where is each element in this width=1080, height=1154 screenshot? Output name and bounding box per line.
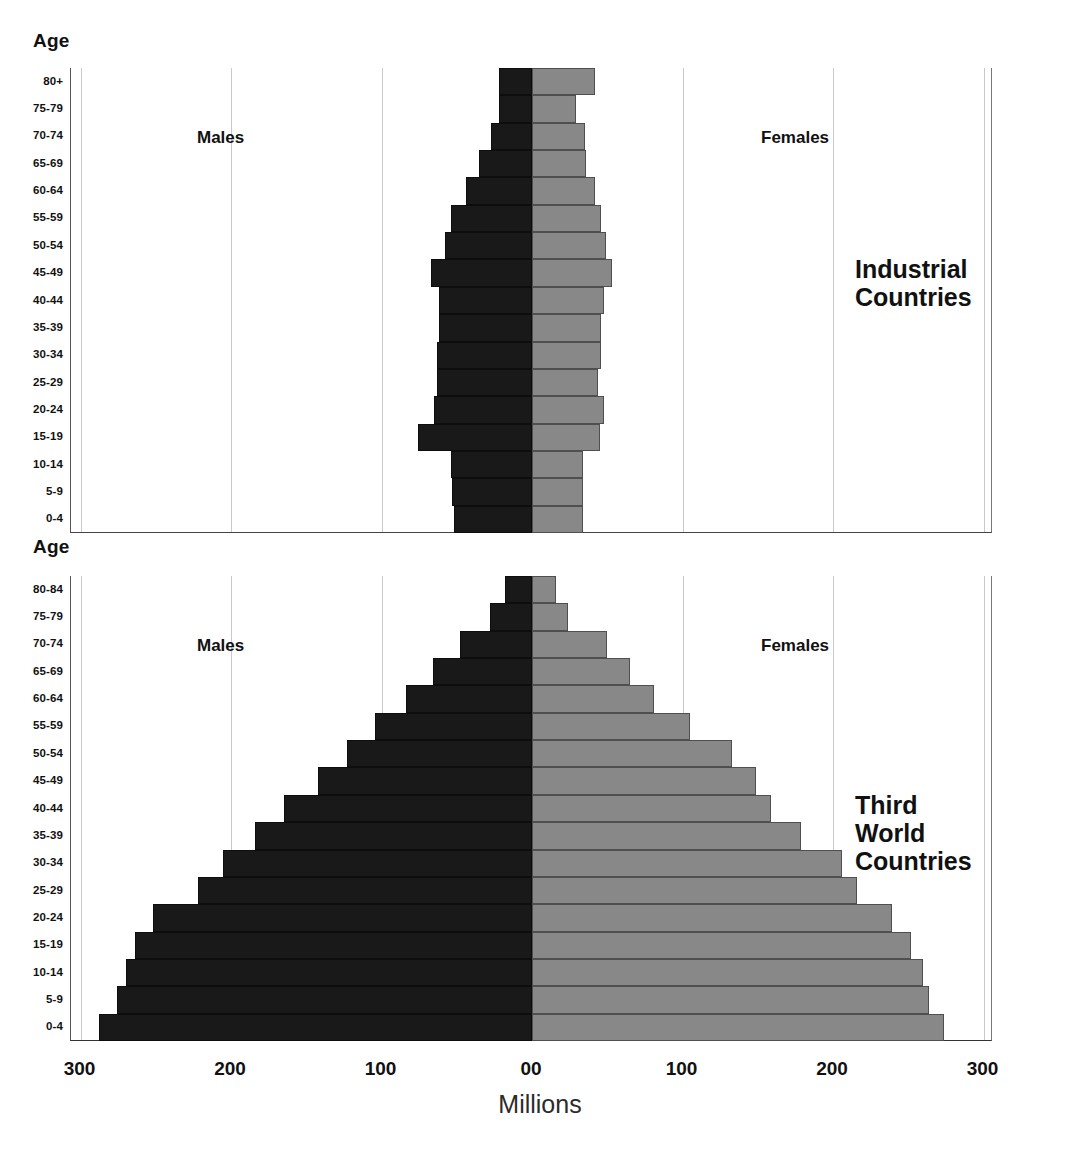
bar-female [532, 658, 630, 685]
x-tick-label: 00 [520, 1058, 541, 1080]
bar-male [499, 95, 532, 122]
age-group-label: 50-54 [5, 747, 63, 759]
pyramid-row [71, 342, 991, 369]
pyramid-row [71, 451, 991, 478]
bar-female [532, 342, 601, 369]
bar-female [532, 576, 556, 603]
bar-female [532, 713, 690, 740]
bar-female [532, 877, 857, 904]
bar-male [198, 877, 532, 904]
pyramid-row [71, 232, 991, 259]
axis-label-age-bottom: Age [33, 536, 70, 558]
bar-female [532, 822, 801, 849]
age-group-label: 75-79 [5, 102, 63, 114]
pyramid-row [71, 850, 991, 877]
pyramid-row [71, 740, 991, 767]
bar-male [431, 259, 532, 286]
bar-male [460, 631, 532, 658]
bar-female [532, 767, 756, 794]
bar-male [153, 904, 532, 931]
panel-third-world-countries: Age Males Females Third World Countries … [0, 528, 1080, 1068]
age-group-label: 80+ [5, 75, 63, 87]
bar-female [532, 177, 595, 204]
bar-male [439, 287, 532, 314]
bar-male [375, 713, 532, 740]
bar-male [135, 932, 532, 959]
age-group-label: 5-9 [5, 485, 63, 497]
bar-male [126, 959, 532, 986]
bar-female [532, 123, 585, 150]
pyramid-row [71, 287, 991, 314]
bar-male [439, 314, 532, 341]
x-tick-label: 100 [365, 1058, 397, 1080]
age-group-label: 45-49 [5, 774, 63, 786]
age-group-label: 30-34 [5, 348, 63, 360]
pyramid-row [71, 259, 991, 286]
pyramid-row [71, 986, 991, 1013]
bar-male [499, 68, 532, 95]
x-tick-label: 200 [816, 1058, 848, 1080]
pyramid-row [71, 1014, 991, 1041]
age-group-label: 65-69 [5, 665, 63, 677]
pyramid-row [71, 795, 991, 822]
bar-female [532, 205, 601, 232]
bar-female [532, 631, 607, 658]
age-group-label: 65-69 [5, 157, 63, 169]
bar-male [491, 123, 532, 150]
pyramid-row [71, 369, 991, 396]
pyramid-row [71, 478, 991, 505]
age-group-label: 50-54 [5, 239, 63, 251]
bar-female [532, 740, 732, 767]
caption-industrial-countries: Industrial Countries [855, 255, 972, 311]
pyramid-row [71, 767, 991, 794]
bar-male [451, 205, 532, 232]
bar-female [532, 259, 612, 286]
age-group-label: 60-64 [5, 692, 63, 704]
bar-female [532, 424, 600, 451]
plot-area-industrial: Males Females Industrial Countries 80+75… [70, 68, 992, 533]
population-pyramid-figure: Age Males Females Industrial Countries 8… [0, 0, 1080, 1154]
axis-title-millions: Millions [0, 1090, 1080, 1119]
age-group-label: 0-4 [5, 1020, 63, 1032]
bar-female [532, 232, 606, 259]
axis-label-age-top: Age [33, 30, 70, 52]
bar-male [434, 396, 532, 423]
bar-female [532, 685, 654, 712]
label-males-bottom: Males [197, 636, 244, 656]
pyramid-row [71, 658, 991, 685]
pyramid-row [71, 314, 991, 341]
label-females-top: Females [761, 128, 829, 148]
bar-male [347, 740, 532, 767]
pyramid-row [71, 685, 991, 712]
age-group-label: 35-39 [5, 321, 63, 333]
pyramid-row [71, 932, 991, 959]
bar-female [532, 369, 598, 396]
bar-male [505, 576, 532, 603]
age-group-label: 5-9 [5, 993, 63, 1005]
age-group-label: 55-59 [5, 719, 63, 731]
bar-female [532, 287, 604, 314]
age-group-label: 70-74 [5, 637, 63, 649]
pyramid-row [71, 959, 991, 986]
x-tick-label: 100 [666, 1058, 698, 1080]
bar-female [532, 850, 842, 877]
age-group-label: 55-59 [5, 211, 63, 223]
bar-male [418, 424, 532, 451]
bar-male [451, 451, 532, 478]
age-group-label: 15-19 [5, 430, 63, 442]
bar-female [532, 904, 892, 931]
bar-male [99, 1014, 532, 1041]
plot-area-third-world: Males Females Third World Countries 80-8… [70, 576, 992, 1041]
pyramid-row [71, 177, 991, 204]
bar-female [532, 314, 601, 341]
bar-female [532, 150, 586, 177]
bar-male [284, 795, 532, 822]
pyramid-row [71, 396, 991, 423]
age-group-label: 20-24 [5, 403, 63, 415]
bar-female [532, 795, 771, 822]
age-group-label: 25-29 [5, 376, 63, 388]
age-group-label: 45-49 [5, 266, 63, 278]
age-group-label: 35-39 [5, 829, 63, 841]
label-males-top: Males [197, 128, 244, 148]
bar-female [532, 1014, 944, 1041]
